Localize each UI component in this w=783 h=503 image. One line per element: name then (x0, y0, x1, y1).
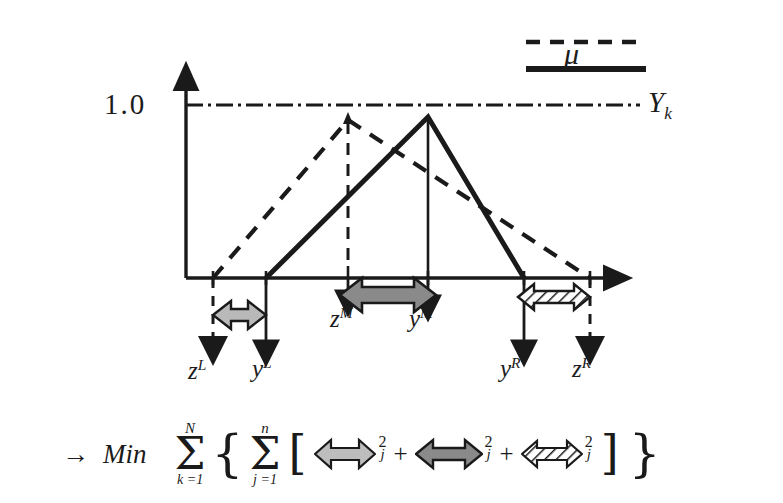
point-label-yM: yM (409, 305, 433, 331)
mu-legend-label: μ (564, 39, 579, 69)
inner-summation: n Σ j =1 (249, 421, 280, 486)
hatched-arrow-icon (521, 437, 583, 471)
yR-base: y (500, 355, 511, 382)
close-bracket: ] (601, 434, 619, 473)
point-label-zM: zM (330, 305, 353, 331)
open-brace: { (212, 434, 244, 474)
formula-term-right: 2 j (521, 437, 593, 471)
plus-sign-2: + (500, 440, 514, 468)
idx-j-left: j (380, 447, 384, 462)
yL-sup: L (263, 354, 272, 371)
outer-sum-lower: k =1 (177, 473, 203, 487)
point-label-yR: yR (500, 355, 521, 381)
zM-sup: M (340, 304, 353, 321)
close-brace: } (629, 434, 661, 474)
left-deviation-arrow (213, 301, 266, 329)
fuzzy-membership-figure: 1.0 Yk μ zL yL zM yM yR zR → Min N Σ k =… (0, 0, 783, 503)
yR-sup: R (511, 354, 520, 371)
point-label-zR: zR (572, 355, 591, 381)
Yk-subscript: k (664, 103, 672, 123)
Yk-base: Y (648, 86, 664, 118)
inner-sum-lower: j =1 (253, 473, 277, 487)
zR-sup: R (582, 354, 591, 371)
objective-formula: → Min N Σ k =1 { n Σ j =1 [ 2 j + (62, 408, 762, 500)
idx-j-middle: j (487, 447, 491, 462)
Yk-label: Yk (648, 88, 672, 122)
right-deviation-arrow (518, 284, 590, 310)
formula-term-middle: 2 j (415, 437, 493, 471)
point-label-yL: yL (252, 355, 272, 381)
min-label: Min (103, 439, 147, 470)
inner-sum-sigma: Σ (249, 434, 280, 474)
exponent-index-left: 2 j (378, 434, 386, 462)
formula-term-left: 2 j (314, 437, 386, 471)
yM-sup: M (420, 304, 433, 321)
peak-marker-zM (343, 112, 353, 124)
dark-gray-arrow-icon (415, 437, 483, 471)
solid-triangle-y (266, 117, 524, 278)
point-label-zL: zL (188, 357, 206, 383)
yM-base: y (409, 305, 420, 332)
zL-base: z (188, 357, 198, 384)
zL-sup: L (198, 356, 207, 373)
outer-sum-sigma: Σ (175, 434, 206, 474)
outer-summation: N Σ k =1 (175, 421, 206, 486)
implies-arrow-glyph: → (62, 439, 89, 470)
exponent-index-middle: 2 j (485, 434, 493, 462)
zM-base: z (330, 305, 340, 332)
exponent-index-right: 2 j (585, 434, 593, 462)
idx-j-right: j (587, 447, 591, 462)
zR-base: z (572, 355, 582, 382)
open-bracket: [ (289, 434, 307, 473)
yL-base: y (252, 355, 263, 382)
y-axis-value-label: 1.0 (104, 90, 146, 119)
light-gray-arrow-icon (314, 437, 376, 471)
plus-sign-1: + (393, 440, 407, 468)
